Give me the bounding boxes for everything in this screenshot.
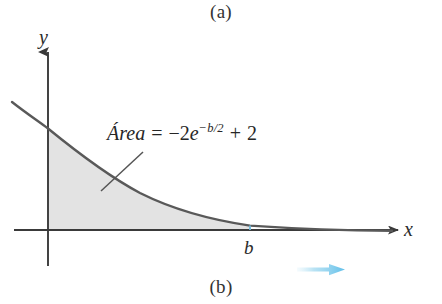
y-axis-label: y	[37, 26, 48, 49]
area-formula-constant: 2	[247, 122, 257, 144]
area-formula-coefficient: −2	[168, 122, 189, 144]
figure-caption-bottom: (b)	[0, 276, 442, 298]
shaded-area	[48, 129, 250, 231]
area-formula-label: Área	[107, 122, 145, 144]
area-formula-exponent: −b/2	[199, 121, 224, 135]
bound-label: b	[244, 237, 254, 258]
limit-arrow-icon	[297, 264, 345, 275]
plot-area: x y b	[0, 18, 442, 276]
area-formula-equals: =	[150, 122, 163, 144]
area-formula-base: e	[190, 122, 199, 144]
area-formula: Área = −2e−b/2 + 2	[107, 122, 257, 143]
x-axis-label: x	[403, 218, 413, 240]
area-formula-plus: +	[229, 122, 242, 144]
figure-root: (a)	[0, 0, 442, 304]
